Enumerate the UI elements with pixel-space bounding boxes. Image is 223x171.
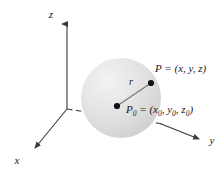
sphere-coordinate-figure: z x y r P = (x, y, z) P0 = (x0, y0, z0) <box>0 0 223 171</box>
point-label-p0-equals: = ( <box>136 103 154 116</box>
point-label-p: P = (x, y, z) <box>154 62 207 75</box>
point-label-p-coords: x, y, z <box>177 62 203 74</box>
point-marker-p <box>148 80 154 86</box>
z-axis-label: z <box>48 8 54 20</box>
radius-label: r <box>129 76 133 87</box>
x-axis-label: x <box>14 154 20 166</box>
point-label-p-equals: = ( <box>162 62 180 75</box>
point-label-p-close: ) <box>202 62 207 75</box>
x-axis-line <box>35 109 67 148</box>
sphere-shape <box>81 58 161 138</box>
y-axis-line <box>160 124 199 140</box>
point-marker-p0 <box>114 103 120 109</box>
point-label-p0-close: ) <box>188 103 193 116</box>
figure-canvas: z x y r P = (x, y, z) P0 = (x0, y0, z0) <box>0 0 223 171</box>
y-axis-label: y <box>209 134 215 146</box>
